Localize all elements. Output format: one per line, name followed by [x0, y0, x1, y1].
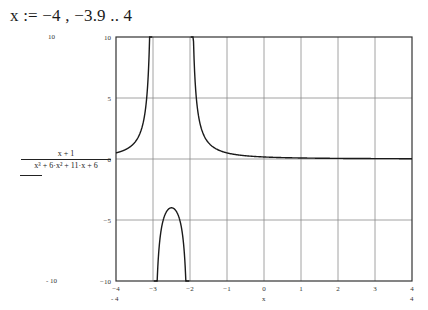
y-tick-label: 0 [108, 156, 112, 164]
x-tick-label: 0 [262, 285, 266, 293]
y-tick-label: −10 [100, 278, 111, 286]
y-tick-label: 10 [104, 34, 112, 42]
x-tick-label: −4 [112, 285, 120, 293]
x-tick-label: −1 [223, 285, 231, 293]
y-tick-label: −5 [104, 217, 112, 225]
x-tick-label: 3 [373, 285, 377, 293]
x-tick-label: 4 [410, 285, 414, 293]
xy-plot[interactable]: −4−3−2−1012341050−5−10 [0, 0, 428, 310]
x-tick-label: 1 [299, 285, 303, 293]
x-tick-label: 2 [336, 285, 340, 293]
y-tick-label: 5 [108, 95, 112, 103]
x-tick-label: −2 [186, 285, 194, 293]
x-tick-label: −3 [149, 285, 157, 293]
tick-labels: −4−3−2−1012341050−5−10 [100, 34, 414, 294]
